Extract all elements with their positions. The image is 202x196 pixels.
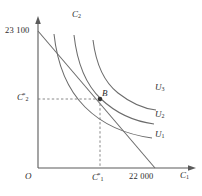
indifference-curve-u3 <box>93 40 156 110</box>
curve-label-u2: U2 <box>155 110 165 119</box>
indifference-curve-u2 <box>74 35 154 124</box>
y-axis-max-tick-label: 23 100 <box>5 26 30 35</box>
diagram-canvas <box>0 0 202 196</box>
curve-label-u1: U1 <box>155 130 165 139</box>
curve-label-u3: U3 <box>155 83 165 92</box>
y-axis-label: C2 <box>72 10 81 19</box>
x-axis <box>38 165 196 171</box>
indifference-curve-diagram: C2 23 100 C*2 O C*1 22 000 C1 U3 U2 U1 B <box>0 0 202 196</box>
optimum-point-label: B <box>102 89 108 98</box>
x-axis-optimum-tick-label: C*1 <box>92 172 104 182</box>
x-axis-max-tick-label: 22 000 <box>129 172 154 181</box>
y-axis <box>35 16 41 168</box>
indifference-curve-u1 <box>54 34 152 138</box>
y-axis-optimum-tick-label: C*2 <box>17 92 29 102</box>
x-axis-label: C1 <box>180 171 189 180</box>
origin-label: O <box>25 172 32 181</box>
optimum-guide-lines <box>38 99 100 168</box>
budget-line <box>38 31 155 168</box>
